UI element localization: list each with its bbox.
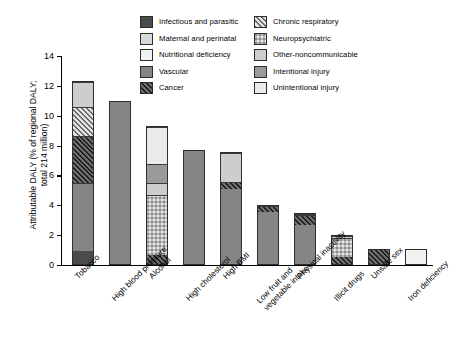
legend-label-maternal: Maternal and perinatal	[159, 35, 236, 43]
legend-swatch-neuro-icon	[254, 33, 267, 45]
legend-label-chronicresp: Chronic respiratory	[273, 18, 339, 26]
y-axis-title-line1: Attributable DALY (% of regional DALY;	[28, 50, 39, 260]
bar-high-bmi	[220, 152, 242, 265]
plot-area: 02468101214 Attributable DALY (% of regi…	[62, 56, 432, 265]
bar-high-blood-pressure	[109, 101, 131, 265]
bar-tobacco	[72, 81, 94, 265]
y-tick-label: 10	[44, 111, 54, 120]
bar-segment-intentional	[147, 164, 167, 183]
bar-segment-cancer	[332, 257, 352, 264]
x-axis-labels: TobaccoHigh blood pressureAlcoholHigh ch…	[0, 268, 457, 357]
bar-iron-deficiency	[405, 249, 427, 265]
legend-swatch-infectious-icon	[140, 16, 153, 28]
y-tick-label: 8	[49, 141, 54, 150]
bar-segment-vascular	[110, 102, 130, 264]
y-tick-mark	[57, 146, 62, 147]
y-tick-mark	[57, 56, 62, 57]
bar-alcohol	[146, 126, 168, 265]
y-tick-mark	[57, 235, 62, 236]
y-tick-mark	[57, 265, 62, 266]
y-tick-mark	[57, 116, 62, 117]
x-label-line1: Illicit drugs	[332, 269, 366, 303]
bar-segment-cancer	[221, 182, 241, 189]
y-axis-title: Attributable DALY (% of regional DALY; t…	[28, 0, 54, 50]
chart-container: Infectious and parasiticMaternal and per…	[0, 0, 457, 357]
legend-swatch-maternal-icon	[140, 33, 153, 45]
legend-label-infectious: Infectious and parasitic	[159, 18, 239, 26]
bar-segment-othernon	[147, 183, 167, 195]
bar-segment-vascular	[258, 212, 278, 264]
legend-swatch-chronicresp-icon	[254, 16, 267, 28]
bar-segment-vascular	[184, 151, 204, 264]
bar-segment-nutritional	[406, 250, 426, 264]
y-tick-mark	[57, 205, 62, 206]
y-tick-label: 2	[49, 231, 54, 240]
y-tick-label: 6	[49, 171, 54, 180]
bar-segment-vascular	[221, 189, 241, 264]
legend-item-maternal: Maternal and perinatal	[140, 31, 239, 48]
x-label-illicit-drugs: Illicit drugs	[333, 270, 366, 303]
y-tick-label: 12	[44, 81, 54, 90]
bar-segment-vascular	[73, 183, 93, 251]
bar-segment-othernon	[221, 153, 241, 182]
legend-label-neuro: Neuropsychiatric	[273, 35, 331, 43]
legend-item-neuro: Neuropsychiatric	[254, 31, 358, 48]
bar-segment-unintentional	[147, 127, 167, 164]
bar-low-fruit-and-vegetable-intake	[257, 205, 279, 265]
bar-segment-cancer	[295, 215, 315, 225]
y-tick-label: 14	[44, 52, 54, 61]
legend-item-infectious: Infectious and parasitic	[140, 14, 239, 31]
bar-segment-chronicresp	[73, 107, 93, 135]
bar-segment-cancer	[73, 136, 93, 183]
bar-high-cholesterol	[183, 150, 205, 265]
y-tick-label: 4	[49, 201, 54, 210]
y-tick-mark	[57, 175, 62, 176]
y-tick-mark	[57, 86, 62, 87]
bar-segment-othernon	[73, 82, 93, 107]
legend-item-chronicresp: Chronic respiratory	[254, 14, 358, 31]
